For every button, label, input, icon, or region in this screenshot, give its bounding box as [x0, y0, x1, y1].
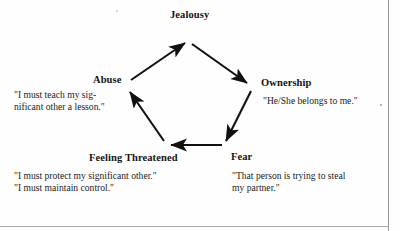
node-label-fear: Fear: [231, 151, 252, 162]
edge-abuse-to-jealousy: [131, 43, 185, 80]
quote-block-ownership: "He/She belongs to me.": [263, 95, 358, 107]
quote-line: "I must protect my significant other.": [14, 170, 157, 182]
page-edge-right: [388, 0, 389, 231]
quote-block-abuse: "I must teach my sig- nificant other a l…: [14, 89, 105, 114]
edge-ownership-to-fear: [226, 91, 251, 141]
node-label-ownership: Ownership: [261, 77, 312, 88]
quote-line: "I must teach my sig-: [14, 89, 105, 101]
node-label-feeling-threatened: Feeling Threatened: [89, 152, 178, 163]
node-label-jealousy: Jealousy: [170, 9, 209, 20]
quote-line: "That person is trying to steal: [232, 170, 345, 182]
page-edge-bottom: [0, 226, 389, 227]
quote-line: my partner.": [232, 182, 345, 194]
edge-feeling-threatened-to-abuse: [130, 92, 164, 141]
quote-line: "I must maintain control.": [14, 182, 157, 194]
diagram-page: Jealousy Abuse Ownership Feeling Threate…: [0, 0, 400, 231]
scan-speck: [116, 10, 118, 12]
quote-block-feeling-threatened: "I must protect my significant other." "…: [14, 170, 157, 195]
quote-line: "He/She belongs to me.": [263, 95, 358, 107]
scan-speck: [380, 104, 382, 106]
edge-jealousy-to-ownership: [192, 44, 247, 83]
jealousy-cycle-diagram: [0, 0, 400, 231]
quote-block-fear: "That person is trying to steal my partn…: [232, 170, 345, 195]
quote-line: nificant other a lesson.": [14, 101, 105, 113]
node-label-abuse: Abuse: [93, 74, 122, 85]
